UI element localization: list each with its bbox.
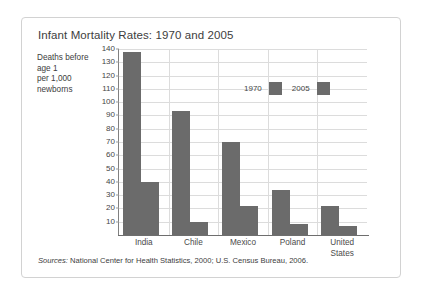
sources-label: Sources: (38, 256, 68, 265)
legend-entry-2005: 2005 (292, 82, 330, 95)
y-axis-tick-label: 10 (106, 218, 115, 226)
legend-label-2005: 2005 (292, 84, 310, 93)
y-axis-tick-mark (116, 208, 119, 209)
y-axis-tick-mark (116, 75, 119, 76)
y-axis-tick-label: 90 (106, 111, 115, 119)
bar-chile-2005 (190, 222, 208, 235)
bar-united-states-1970 (321, 206, 339, 235)
x-axis-category-label: United States (317, 238, 367, 259)
bar-mexico-1970 (222, 142, 240, 235)
chart-title: Infant Mortality Rates: 1970 and 2005 (38, 29, 234, 41)
bar-mexico-2005 (240, 206, 258, 235)
y-axis-tick-mark (116, 155, 119, 156)
y-axis-tick-mark (116, 221, 119, 222)
x-axis-category-label: Chile (169, 238, 219, 249)
plot-canvas: 102030405060708090100110120130140 (119, 49, 367, 235)
gridline (119, 89, 367, 90)
gridline (119, 102, 367, 103)
y-axis-label-line-1: Deaths before (37, 53, 111, 64)
sources-text: National Center for Health Statistics, 2… (68, 256, 308, 265)
x-axis-category-label: Poland (268, 238, 318, 249)
plot-area: 102030405060708090100110120130140 IndiaC… (119, 49, 367, 235)
chart-figure: Infant Mortality Rates: 1970 and 2005 De… (21, 17, 401, 278)
y-axis-label-line-3: per 1,000 (37, 74, 111, 85)
bar-india-1970 (123, 52, 141, 235)
category-separator (218, 49, 219, 235)
bar-united-states-2005 (339, 226, 357, 235)
gridline (119, 129, 367, 130)
gridline (119, 62, 367, 63)
y-axis-tick-label: 130 (102, 58, 115, 66)
x-axis-category-label: Mexico (218, 238, 268, 249)
gridline (119, 169, 367, 170)
category-separator (169, 49, 170, 235)
y-axis-tick-label: 80 (106, 125, 115, 133)
y-axis-tick-label: 30 (106, 191, 115, 199)
y-axis-tick-label: 20 (106, 204, 115, 212)
gridline (119, 142, 367, 143)
gridline (119, 49, 367, 50)
chart-legend: 1970 2005 (244, 82, 330, 95)
bar-poland-1970 (272, 190, 290, 235)
y-axis-tick-mark (116, 49, 119, 50)
y-axis-tick-mark (116, 88, 119, 89)
gridline (119, 115, 367, 116)
y-axis-tick-mark (116, 128, 119, 129)
y-axis-tick-mark (116, 195, 119, 196)
y-axis-tick-label: 140 (102, 45, 115, 53)
y-axis-tick-label: 110 (102, 85, 115, 93)
y-axis-tick-mark (116, 62, 119, 63)
legend-swatch-2005 (317, 82, 330, 95)
y-axis-tick-mark (116, 115, 119, 116)
legend-label-1970: 1970 (244, 84, 262, 93)
y-axis-tick-mark (116, 142, 119, 143)
y-axis-tick-mark (116, 181, 119, 182)
y-axis-tick-label: 50 (106, 165, 115, 173)
y-axis-tick-label: 40 (106, 178, 115, 186)
sources-note: Sources: National Center for Health Stat… (38, 256, 308, 265)
y-axis-tick-label: 120 (102, 72, 115, 80)
category-separator (268, 49, 269, 235)
gridline (119, 76, 367, 77)
y-axis-label-line-4: newborns (37, 85, 111, 96)
y-axis-tick-label: 70 (106, 138, 115, 146)
y-axis-label-line-2: age 1 (37, 64, 111, 75)
legend-entry-1970: 1970 (244, 82, 282, 95)
bar-india-2005 (141, 182, 159, 235)
category-separator (317, 49, 318, 235)
y-axis-tick-mark (116, 168, 119, 169)
y-axis-tick-mark (116, 102, 119, 103)
bar-chile-1970 (172, 111, 190, 235)
x-axis-category-label: India (119, 238, 169, 249)
y-axis-tick-label: 60 (106, 151, 115, 159)
y-axis-label-block: Deaths before age 1 per 1,000 newborns (37, 53, 111, 95)
bar-poland-2005 (290, 224, 308, 235)
gridline (119, 155, 367, 156)
legend-swatch-1970 (269, 82, 282, 95)
y-axis-tick-label: 100 (102, 98, 115, 106)
